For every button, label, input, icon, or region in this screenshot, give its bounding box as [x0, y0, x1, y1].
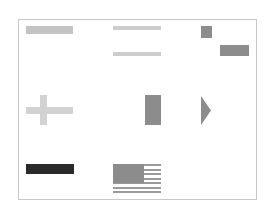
flag-icon: [113, 164, 161, 193]
cross-horizontal: [26, 107, 73, 114]
flag-canton: [113, 164, 144, 183]
cross-vertical: [40, 95, 47, 125]
thin-bar-1: [113, 26, 161, 30]
medium-rect: [220, 45, 249, 56]
triangle-right-icon: [201, 96, 211, 125]
small-square: [201, 26, 212, 38]
thin-bar-2: [113, 52, 161, 56]
bar-top-left: [26, 26, 73, 34]
flag-stripe: [113, 187, 161, 189]
vertical-rect: [145, 95, 161, 125]
dark-bar: [26, 164, 74, 174]
flag-stripe: [113, 191, 161, 193]
